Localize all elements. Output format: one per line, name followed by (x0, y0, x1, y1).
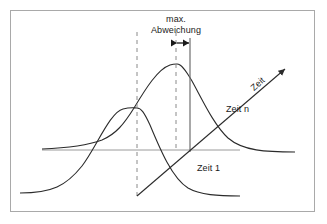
curve-zeit1 (20, 108, 240, 196)
time-axis-arrow (137, 69, 285, 196)
max-deviation-label-line1: max. (166, 14, 186, 24)
max-deviation-label-line2: Abweichung (151, 25, 201, 35)
diagram-page: max.Abweichung Zeit n Zeit 1 Zeit (0, 0, 327, 224)
max-deviation-label: max.Abweichung (136, 14, 216, 36)
curve-label-zeit-1: Zeit 1 (197, 163, 220, 173)
curve-label-zeit-n: Zeit n (226, 104, 249, 114)
